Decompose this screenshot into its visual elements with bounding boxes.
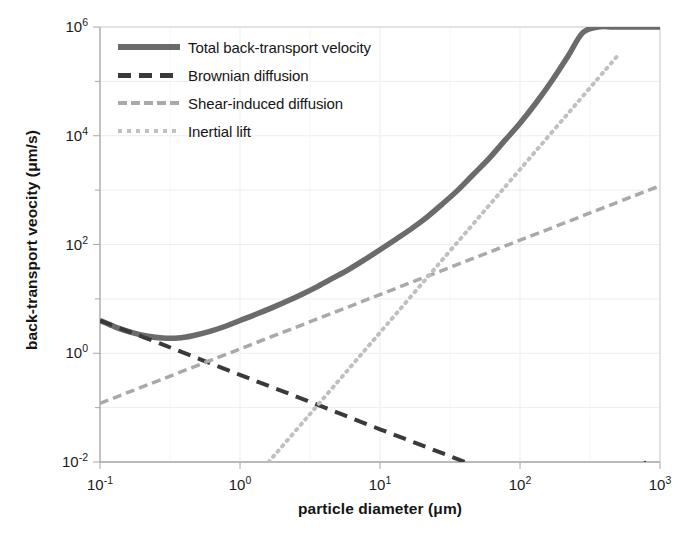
x-axis-title: particle diameter (μm) xyxy=(100,500,660,518)
legend-label-brownian: Brownian diffusion xyxy=(188,67,309,84)
x-tick-label-1: 100 xyxy=(205,474,275,493)
chart-legend: Total back-transport velocity Brownian d… xyxy=(118,33,448,145)
legend-item-inertial: Inertial lift xyxy=(118,117,448,145)
legend-item-total: Total back-transport velocity xyxy=(118,33,448,61)
y-tick-label-4: 10-2 xyxy=(0,451,88,470)
x-tick-label-4: 103 xyxy=(625,474,695,493)
dashed-light-line-key xyxy=(118,96,180,110)
legend-label-inertial: Inertial lift xyxy=(188,123,251,140)
x-tick-label-2: 101 xyxy=(345,474,415,493)
y-tick-label-0: 106 xyxy=(0,16,88,35)
y-tick-label-1: 104 xyxy=(0,125,88,144)
solid-line-key xyxy=(118,40,180,54)
y-tick-label-3: 100 xyxy=(0,342,88,361)
y-tick-label-2: 102 xyxy=(0,234,88,253)
legend-item-brownian: Brownian diffusion xyxy=(118,61,448,89)
legend-item-shear: Shear-induced diffusion xyxy=(118,89,448,117)
chart-figure: 10610410210010-2 10-1100101102103 back-t… xyxy=(0,0,695,536)
x-tick-label-0: 10-1 xyxy=(65,474,135,493)
y-axis-title: back-transport veocity (μm/s) xyxy=(23,50,41,430)
dashed-dark-line-key xyxy=(118,68,180,82)
legend-label-shear: Shear-induced diffusion xyxy=(188,95,343,112)
legend-label-total: Total back-transport velocity xyxy=(188,39,371,56)
dotted-light-line-key xyxy=(118,124,180,138)
x-tick-label-3: 102 xyxy=(485,474,555,493)
